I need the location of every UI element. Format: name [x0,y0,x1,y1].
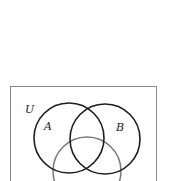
set-a-label: A [43,120,52,133]
set-b-label: B [115,121,124,134]
universe-label: U [25,103,35,116]
set-c-circle [53,137,121,181]
set-b-circle [70,104,140,174]
venn-diagram: U A B [0,0,174,181]
